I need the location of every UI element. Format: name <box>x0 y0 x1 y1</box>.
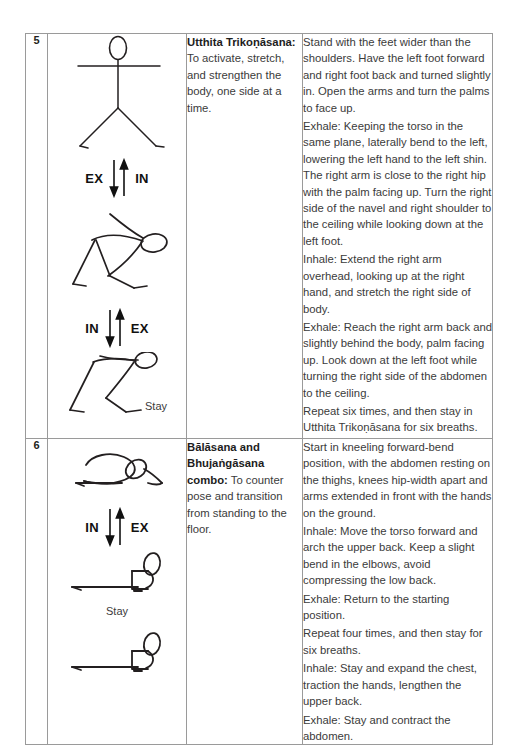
breath-label-left: IN <box>85 521 99 534</box>
instruction-paragraph: Exhale: Return to the starting position. <box>303 591 492 624</box>
triangle-pose-figure-icon <box>48 202 186 306</box>
triangle-pose-stay-figure-icon: Stay <box>48 352 186 424</box>
breath-label-left: IN <box>85 322 99 335</box>
stay-label: Stay <box>48 605 186 617</box>
table-row: 6 <box>26 439 493 745</box>
cobra-pose-figure-icon: Stay <box>48 551 186 617</box>
standing-figure-arms-extended-icon <box>48 34 186 156</box>
figure-stack: IN EX <box>48 439 186 691</box>
row-number-cell: 6 <box>26 439 48 745</box>
instruction-paragraph: Inhale: Stay and expand the chest, tract… <box>303 660 492 709</box>
row-number-cell: 5 <box>26 34 48 439</box>
instruction-paragraph: Exhale: Stay and contract the abdomen. <box>303 712 492 745</box>
table-row: 5 <box>26 34 493 439</box>
stay-label: Stay <box>145 400 167 412</box>
figure-stack: EX IN <box>48 34 186 438</box>
instruction-paragraph: Repeat six times, and then stay in Utthi… <box>303 403 492 436</box>
instruction-paragraph: Inhale: Move the torso forward and arch … <box>303 523 492 589</box>
row-number: 6 <box>33 439 39 451</box>
breath-label-right: EX <box>131 322 149 335</box>
practice-sequence-table: 5 <box>25 33 493 745</box>
breath-label-left: EX <box>85 172 103 185</box>
breath-arrows-icon <box>102 507 128 547</box>
page-canvas: 5 <box>0 0 512 751</box>
pose-name-cell: Utthita Trikoṇāsana: To activate, stretc… <box>187 34 303 439</box>
instructions-cell: Start in kneeling forward-bend position,… <box>303 439 493 745</box>
breath-indicator-inhale-exhale: IN EX <box>48 507 186 547</box>
row-number: 5 <box>33 34 39 46</box>
pose-title: Utthita Trikoṇāsana: <box>187 36 296 48</box>
breath-indicator-inhale-exhale: IN EX <box>48 308 186 348</box>
pose-purpose: To activate, stretch, and strengthen the… <box>187 52 284 113</box>
breath-label-right: IN <box>135 172 149 185</box>
instructions-cell: Stand with the feet wider than the shoul… <box>303 34 493 439</box>
figure-cell: IN EX <box>48 439 187 745</box>
instruction-paragraph: Repeat four times, and then stay for six… <box>303 625 492 658</box>
breath-indicator-exhale-inhale: EX IN <box>48 158 186 198</box>
cobra-pose-final-figure-icon <box>48 631 186 685</box>
instruction-paragraph: Exhale: Keeping the torso in the same pl… <box>303 118 492 249</box>
instruction-paragraph: Stand with the feet wider than the shoul… <box>303 34 492 116</box>
pose-name-cell: Bālāsana and Bhujaṅgāsana combo: To coun… <box>187 439 303 745</box>
kneeling-forward-bend-figure-icon <box>48 439 186 505</box>
breath-arrows-icon <box>102 308 128 348</box>
figure-cell: EX IN <box>48 34 187 439</box>
instruction-paragraph: Exhale: Reach the right arm back and sli… <box>303 319 492 401</box>
breath-arrows-icon <box>106 158 132 198</box>
instruction-paragraph: Start in kneeling forward-bend position,… <box>303 439 492 521</box>
instruction-paragraph: Inhale: Extend the right arm overhead, l… <box>303 251 492 317</box>
breath-label-right: EX <box>131 521 149 534</box>
